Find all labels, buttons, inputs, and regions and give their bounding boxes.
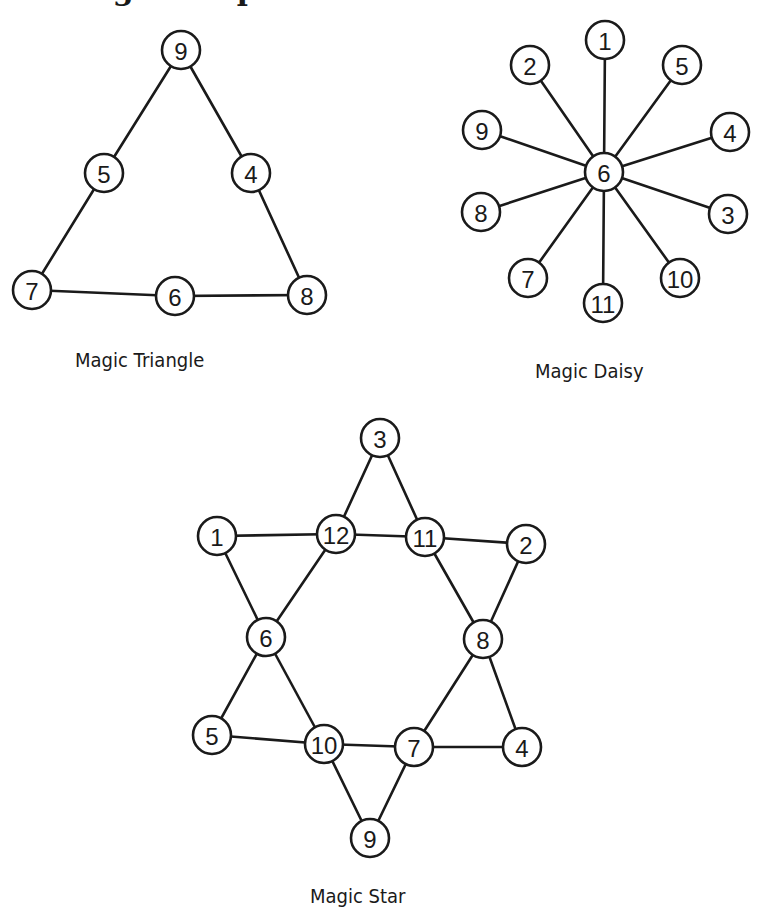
node-daisy-11: 11: [584, 284, 622, 322]
node-star-4: 4: [503, 728, 541, 766]
node-label: 2: [519, 532, 532, 559]
node-triangle-7: 7: [13, 271, 51, 309]
node-label: 12: [323, 522, 350, 549]
node-label: 1: [210, 524, 223, 551]
node-star-12: 12: [317, 515, 355, 553]
node-label: 10: [311, 732, 338, 759]
edge-line: [104, 50, 181, 173]
node-label: 7: [407, 735, 420, 762]
node-star-7: 7: [395, 728, 433, 766]
node-daisy-7: 7: [509, 259, 547, 297]
node-label: 5: [205, 723, 218, 750]
node-star-2: 2: [507, 525, 545, 563]
node-label: 6: [168, 284, 181, 311]
edge-line: [32, 290, 175, 296]
node-star-10: 10: [305, 725, 343, 763]
magic-triangle-diagram: 954768: [13, 31, 326, 315]
node-daisy-6: 6: [585, 153, 623, 191]
node-label: 10: [667, 266, 694, 293]
node-label: 4: [515, 735, 528, 762]
node-label: 1: [598, 28, 611, 55]
diagram-canvas: 954768 6125948371011 311211268510749: [0, 0, 762, 911]
node-label: 3: [373, 426, 386, 453]
edge-line: [32, 173, 104, 290]
node-daisy-8: 8: [462, 193, 500, 231]
node-star-6: 6: [247, 618, 285, 656]
node-triangle-8: 8: [288, 276, 326, 314]
node-star-3: 3: [361, 419, 399, 457]
node-label: 9: [174, 38, 187, 65]
node-label: 11: [591, 291, 616, 318]
node-triangle-9: 9: [162, 31, 200, 69]
node-label: 9: [363, 826, 376, 853]
node-label: 7: [521, 266, 534, 293]
node-label: 6: [597, 160, 610, 187]
magic-daisy-diagram: 6125948371011: [462, 21, 749, 322]
node-daisy-2: 2: [511, 46, 549, 84]
node-daisy-1: 1: [586, 21, 624, 59]
node-daisy-9: 9: [463, 111, 501, 149]
node-label: 8: [476, 627, 489, 654]
node-label: 9: [475, 118, 488, 145]
node-label: 5: [97, 161, 110, 188]
node-star-11: 11: [406, 518, 444, 556]
node-star-1: 1: [198, 517, 236, 555]
node-label: 6: [259, 625, 272, 652]
node-label: 4: [723, 120, 736, 147]
node-label: 8: [300, 283, 313, 310]
node-label: 4: [244, 161, 257, 188]
node-star-9: 9: [351, 819, 389, 857]
node-star-5: 5: [193, 716, 231, 754]
node-label: 3: [721, 202, 734, 229]
node-label: 11: [413, 525, 438, 552]
magic-triangle-caption: Magic Triangle: [75, 348, 204, 372]
node-triangle-4: 4: [232, 154, 270, 192]
node-daisy-5: 5: [663, 46, 701, 84]
node-label: 8: [474, 200, 487, 227]
node-daisy-3: 3: [709, 195, 747, 233]
magic-star-diagram: 311211268510749: [193, 419, 545, 857]
magic-star-caption: Magic Star: [310, 884, 406, 908]
node-daisy-10: 10: [661, 259, 699, 297]
edge-line: [181, 50, 251, 173]
magic-daisy-caption: Magic Daisy: [535, 359, 644, 383]
node-label: 5: [675, 53, 688, 80]
node-triangle-5: 5: [85, 154, 123, 192]
node-star-8: 8: [464, 620, 502, 658]
node-label: 7: [25, 278, 38, 305]
node-daisy-4: 4: [711, 113, 749, 151]
node-triangle-6: 6: [156, 277, 194, 315]
node-label: 2: [523, 53, 536, 80]
